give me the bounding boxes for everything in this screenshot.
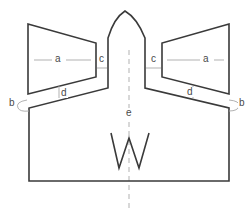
pattern-diagram: a a c c d d b b e — [0, 0, 249, 212]
label-a-left: a — [54, 54, 62, 64]
left-flap-outline — [28, 24, 96, 94]
label-c-left: c — [98, 54, 105, 64]
label-d-right: d — [186, 87, 194, 97]
right-flap-outline — [162, 24, 229, 94]
label-e: e — [125, 108, 133, 118]
label-c-right: c — [150, 54, 157, 64]
center-pleat-w — [111, 133, 149, 168]
label-b-left: b — [8, 98, 16, 108]
label-a-right: a — [202, 54, 210, 64]
diagram-drawing — [0, 0, 249, 212]
label-d-left: d — [60, 88, 68, 98]
label-b-right: b — [238, 98, 246, 108]
dim-b-left-arc — [17, 100, 29, 111]
